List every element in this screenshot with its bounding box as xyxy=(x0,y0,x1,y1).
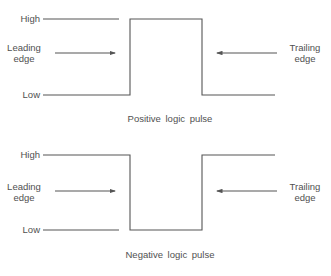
positive-pulse xyxy=(43,19,277,95)
leading-edge-label: Leading edge xyxy=(2,42,46,64)
positive-caption: Positive logic pulse xyxy=(100,113,240,124)
high-label: High xyxy=(0,13,40,24)
leading-edge-label: Leading edge xyxy=(2,181,46,203)
trailing-edge-label: Trailing edge xyxy=(280,42,330,64)
trailing-edge-label: Trailing edge xyxy=(280,181,330,203)
low-label: Low xyxy=(0,224,40,235)
low-label: Low xyxy=(0,89,40,100)
high-label: High xyxy=(0,149,40,160)
negative-pulse xyxy=(43,155,277,230)
negative-pulse-waveform xyxy=(43,155,275,230)
negative-caption: Negative logic pulse xyxy=(100,249,240,260)
positive-pulse-waveform xyxy=(43,19,275,95)
